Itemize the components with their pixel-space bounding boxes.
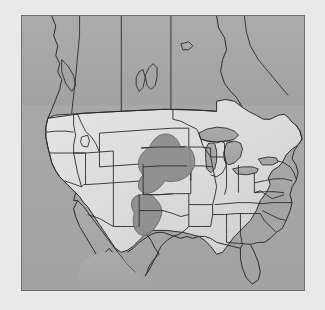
canvas-top-margin <box>0 0 325 15</box>
canvas-right-margin <box>305 0 325 310</box>
canvas-bottom-margin <box>0 291 325 310</box>
lake-ontario <box>258 157 278 165</box>
canvas-left-margin <box>0 0 21 310</box>
canada-landmass <box>22 16 304 105</box>
map-svg[interactable] <box>22 16 304 290</box>
map-figure[interactable] <box>21 15 305 291</box>
